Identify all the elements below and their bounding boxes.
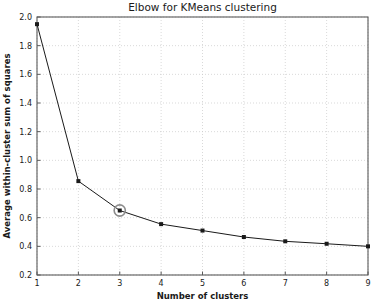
x-axis-label: Number of clusters [157, 291, 249, 301]
x-tick-label: 3 [117, 279, 122, 288]
data-point-marker[interactable] [35, 22, 39, 26]
y-tick-label: 1.6 [19, 70, 32, 79]
x-tick-label: 9 [365, 279, 370, 288]
y-tick-label: 2.0 [19, 13, 32, 22]
y-tick-label: 0.4 [19, 242, 32, 251]
x-tick-label: 5 [200, 279, 205, 288]
data-point-marker[interactable] [201, 229, 205, 233]
chart-title: Elbow for KMeans clustering [128, 1, 277, 13]
data-point-marker[interactable] [118, 209, 122, 213]
x-tick-label: 1 [34, 279, 39, 288]
chart-figure: 0.20.40.60.81.01.21.41.61.82.0123456789E… [0, 0, 385, 303]
x-tick-label: 2 [76, 279, 81, 288]
x-tick-label: 7 [283, 279, 288, 288]
y-tick-label: 1.0 [19, 156, 32, 165]
y-tick-label: 1.8 [19, 42, 32, 51]
elbow-plot: 0.20.40.60.81.01.21.41.61.82.0123456789E… [0, 0, 385, 303]
data-point-marker[interactable] [325, 242, 329, 246]
y-tick-label: 1.4 [19, 99, 32, 108]
y-tick-label: 0.8 [19, 185, 32, 194]
data-point-marker[interactable] [76, 179, 80, 183]
data-point-marker[interactable] [159, 222, 163, 226]
y-tick-label: 1.2 [19, 128, 32, 137]
y-tick-label: 0.2 [19, 271, 32, 280]
y-tick-label: 0.6 [19, 214, 32, 223]
y-axis-label: Average within-cluster sum of squares [2, 53, 12, 238]
x-tick-label: 8 [324, 279, 329, 288]
data-point-marker[interactable] [366, 244, 370, 248]
data-point-marker[interactable] [283, 239, 287, 243]
x-tick-label: 4 [159, 279, 164, 288]
data-point-marker[interactable] [242, 235, 246, 239]
x-tick-label: 6 [241, 279, 246, 288]
data-series-line [37, 24, 368, 246]
